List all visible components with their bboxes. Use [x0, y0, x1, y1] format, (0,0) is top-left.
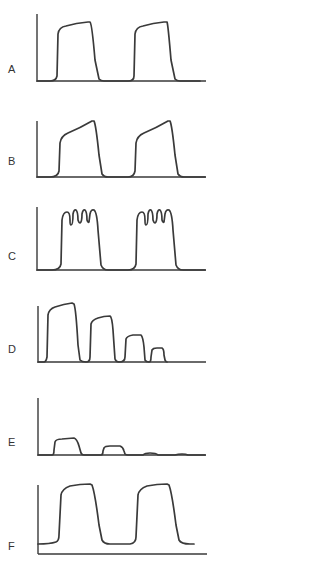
axis-d — [38, 306, 206, 362]
waveform-b — [0, 95, 310, 190]
trace-c — [37, 210, 205, 270]
waveform-f — [0, 465, 310, 561]
waveform-e — [0, 380, 310, 465]
panel-a: A — [0, 0, 310, 95]
trace-a — [37, 22, 200, 81]
trace-d — [38, 303, 167, 362]
waveform-d — [0, 285, 310, 380]
panel-b: B — [0, 95, 310, 190]
axis-a — [37, 14, 206, 81]
panel-c: C — [0, 190, 310, 285]
panel-f: F — [0, 465, 310, 561]
trace-f — [38, 484, 194, 544]
waveform-a — [0, 0, 310, 95]
axis-b — [37, 121, 206, 177]
panel-d: D — [0, 285, 310, 380]
waveform-c — [0, 190, 310, 285]
trace-b — [37, 121, 205, 177]
panel-e: E — [0, 380, 310, 465]
trace-e — [38, 438, 205, 455]
